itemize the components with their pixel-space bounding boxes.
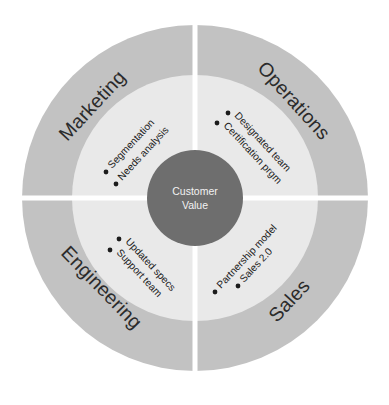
hub-label-line1: Customer xyxy=(172,185,218,197)
customer-value-wheel-diagram: Customer Value Marketing Operations Engi… xyxy=(0,0,389,405)
bullet-dot xyxy=(108,248,113,253)
bullet-dot xyxy=(215,121,220,126)
bullet-dot xyxy=(117,237,122,242)
bullet-dot xyxy=(226,111,231,116)
bullet-dot xyxy=(104,170,109,175)
hub-label-line2: Value xyxy=(182,199,208,211)
wheel-svg: Customer Value Marketing Operations Engi… xyxy=(0,0,389,405)
bullet-dot xyxy=(213,290,218,295)
hub-circle xyxy=(147,150,243,246)
bullet-dot xyxy=(236,284,241,289)
bullet-dot xyxy=(114,182,119,187)
